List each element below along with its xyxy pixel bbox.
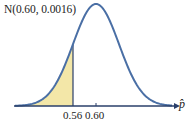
normal-distribution-chart: N(0.60, 0.0016) 0.56 0.60 p̂ — [0, 0, 189, 124]
x-tick-labels: 0.56 0.60 — [63, 109, 104, 121]
x-axis-label: p̂ — [179, 97, 185, 112]
density-curve — [15, 4, 172, 106]
distribution-title: N(0.60, 0.0016) — [4, 3, 76, 15]
chart-canvas — [0, 0, 189, 124]
shaded-tail-region — [15, 44, 73, 106]
